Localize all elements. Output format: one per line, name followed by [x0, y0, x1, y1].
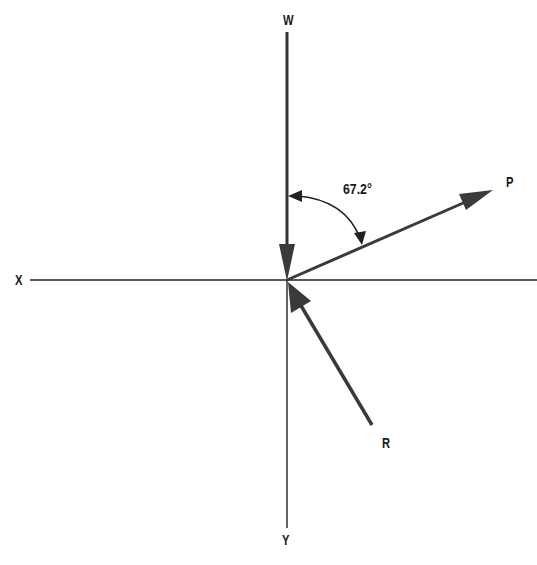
label-y-axis: Y — [282, 533, 289, 547]
arrowhead-p-icon — [459, 190, 493, 210]
vector-r — [288, 282, 372, 425]
label-r: R — [382, 436, 390, 450]
label-x-axis: X — [15, 273, 22, 287]
arrowhead-w-icon — [279, 244, 295, 281]
vector-w — [279, 32, 295, 281]
arrowhead-r-icon — [288, 282, 311, 313]
angle-label: 67.2° — [343, 182, 372, 196]
arc-arrowhead-left-icon — [288, 190, 302, 202]
vector-p — [287, 190, 493, 280]
angle-arc — [288, 190, 366, 245]
label-w: W — [283, 13, 294, 27]
arc-arrowhead-right-icon — [354, 231, 366, 245]
force-diagram — [0, 0, 537, 565]
label-p: P — [506, 175, 513, 189]
